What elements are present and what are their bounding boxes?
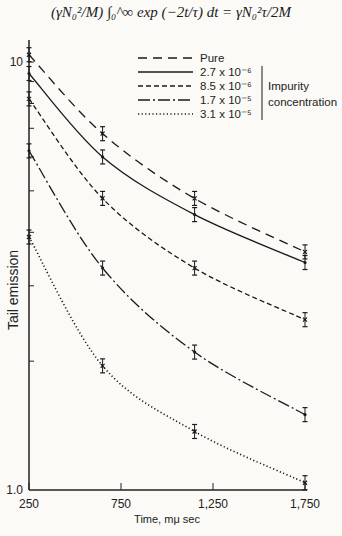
y-tick-label: 1.0 [6, 483, 23, 497]
dot-marker [27, 149, 30, 152]
x-tick-label: 1,750 [290, 497, 320, 511]
y-axis-title: Tail emission [5, 250, 21, 330]
legend-group-label: concentration [268, 96, 337, 108]
series-1 [27, 67, 308, 270]
series-line [29, 151, 305, 415]
legend-label: Pure [200, 52, 224, 64]
dot-marker [193, 213, 196, 216]
dot-marker [101, 266, 104, 269]
x-tick-label: 250 [19, 497, 39, 511]
dot-marker [101, 155, 104, 158]
legend-label: 8.5 x 10⁻⁶ [200, 80, 252, 92]
series-3 [27, 144, 308, 422]
legend-label: 2.7 x 10⁻⁶ [200, 66, 252, 78]
series-4 [27, 230, 308, 490]
legend-label: 1.7 x 10⁻⁵ [200, 94, 252, 106]
x-axis-title: Time, mμ sec [134, 513, 200, 525]
dot-marker [303, 261, 306, 264]
legend-group-label: Impurity [268, 80, 309, 92]
series-2 [27, 92, 308, 327]
x-tick-label: 1,250 [198, 497, 228, 511]
x-tick-label: 750 [111, 497, 131, 511]
chart: 2507501,2501,7501.010Time, mμ secTail em… [0, 0, 342, 536]
y-tick-label: 10 [10, 55, 24, 69]
dot-marker [193, 350, 196, 353]
dot-marker [303, 413, 306, 416]
series-line [29, 99, 305, 320]
series-line [29, 237, 305, 483]
legend: Pure2.7 x 10⁻⁶8.5 x 10⁻⁶1.7 x 10⁻⁵3.1 x … [138, 52, 337, 120]
series-0 [27, 48, 308, 259]
legend-label: 3.1 x 10⁻⁵ [200, 108, 252, 120]
dot-marker [27, 72, 30, 75]
